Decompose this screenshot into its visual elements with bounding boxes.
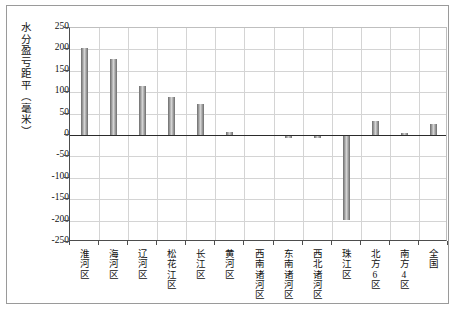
y-axis-tick-label: 250 — [13, 22, 69, 32]
gridline-x — [303, 28, 304, 240]
gridline-x — [128, 28, 129, 240]
bar — [81, 48, 88, 135]
gridline-x — [390, 28, 391, 240]
y-axis-tick-label: -150 — [13, 193, 69, 203]
chart-figure: 水分盈亏距平（毫米） 250200150100500-50-100-150-20… — [6, 5, 449, 304]
x-axis-tickmark — [360, 241, 361, 245]
gridline-x — [361, 28, 362, 240]
x-axis-tickmark — [243, 241, 244, 245]
x-axis-tickmark — [185, 241, 186, 245]
x-axis-tick-label: 全国 — [426, 249, 439, 270]
x-axis-tickmark — [98, 241, 99, 245]
bar — [139, 86, 146, 135]
x-axis-tickmark — [273, 241, 274, 245]
y-axis-tick-label: 100 — [13, 86, 69, 96]
gridline-x — [332, 28, 333, 240]
x-axis-tick-label: 北方6区 — [368, 249, 381, 290]
gridline-x — [215, 28, 216, 240]
y-axis-tick-label: 150 — [13, 65, 69, 75]
x-axis-tick-label: 海河区 — [106, 249, 119, 280]
zero-baseline — [70, 135, 446, 136]
y-axis-tick-label: 200 — [13, 44, 69, 54]
bar — [372, 121, 379, 135]
x-axis-tick-label: 淮河区 — [77, 249, 90, 280]
bar — [197, 104, 204, 135]
y-axis-labels: 250200150100500-50-100-150-200-250 — [7, 27, 69, 241]
x-axis-tickmarks — [69, 241, 447, 246]
bar — [110, 59, 117, 135]
x-axis-tickmark — [418, 241, 419, 245]
x-axis-tickmark — [302, 241, 303, 245]
gridline-x — [244, 28, 245, 240]
gridline-x — [419, 28, 420, 240]
x-axis-tick-label: 长江区 — [193, 249, 206, 280]
x-axis-tick-label: 黄河区 — [222, 249, 235, 280]
y-axis-tick-label: -200 — [13, 215, 69, 225]
x-axis-tickmark — [447, 241, 448, 245]
x-axis-tickmark — [156, 241, 157, 245]
gridline-x — [186, 28, 187, 240]
y-axis-tick-label: 50 — [13, 108, 69, 118]
y-axis-tick-label: 0 — [13, 129, 69, 139]
x-axis-tick-label: 松花江区 — [164, 249, 177, 290]
x-axis-tick-label: 西北诸河区 — [310, 249, 323, 301]
bar — [430, 124, 437, 135]
y-axis-tick-label: -250 — [13, 236, 69, 246]
gridline-x — [274, 28, 275, 240]
y-axis-tick-label: -100 — [13, 172, 69, 182]
y-axis-tick-label: -50 — [13, 151, 69, 161]
bar — [168, 97, 175, 135]
x-axis-tick-label: 东南诸河区 — [281, 249, 294, 301]
x-axis-labels: 淮河区海河区辽河区松花江区长江区黄河区西南诸河区东南诸河区西北诸河区珠江区北方6… — [69, 249, 447, 310]
x-axis-tick-label: 南方4区 — [397, 249, 410, 290]
x-axis-tickmark — [389, 241, 390, 245]
gridline-x — [157, 28, 158, 240]
x-axis-tickmark — [69, 241, 70, 245]
x-axis-tickmark — [127, 241, 128, 245]
x-axis-tick-label: 西南诸河区 — [252, 249, 265, 301]
x-axis-tickmark — [331, 241, 332, 245]
x-axis-tickmark — [214, 241, 215, 245]
x-axis-tick-label: 珠江区 — [339, 249, 352, 280]
x-axis-tick-label: 辽河区 — [135, 249, 148, 280]
gridline-x — [99, 28, 100, 240]
plot-area — [69, 27, 447, 241]
bar — [343, 135, 350, 220]
